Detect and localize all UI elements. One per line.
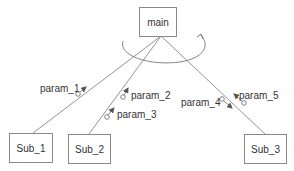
param-3-couple-icon bbox=[105, 108, 114, 119]
param-5-label: param_5 bbox=[239, 90, 278, 101]
module-sub-2-label: Sub_2 bbox=[75, 144, 104, 155]
loop-arrowhead-icon bbox=[197, 34, 203, 39]
module-main-label: main bbox=[147, 17, 169, 28]
module-main[interactable]: main bbox=[139, 7, 177, 37]
param-1-label: param_1 bbox=[40, 83, 79, 94]
module-sub-2[interactable]: Sub_2 bbox=[68, 134, 111, 164]
module-sub-1-label: Sub_1 bbox=[17, 143, 46, 154]
module-sub-3-label: Sub_3 bbox=[251, 144, 280, 155]
module-sub-1[interactable]: Sub_1 bbox=[9, 133, 53, 163]
param-2-label: param_2 bbox=[131, 90, 170, 101]
connector-main-sub3 bbox=[161, 36, 265, 134]
module-sub-3[interactable]: Sub_3 bbox=[244, 134, 287, 164]
param-4-label: param_4 bbox=[181, 97, 220, 108]
param-3-label: param_3 bbox=[117, 109, 156, 120]
param-4-couple-icon bbox=[220, 97, 232, 108]
